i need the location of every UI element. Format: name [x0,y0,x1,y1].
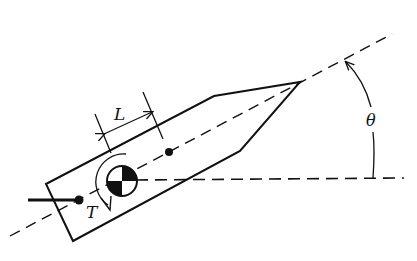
angle-arc-upper [346,62,371,107]
horizontal-reference-line [136,178,404,180]
forward-point-dot [165,148,173,156]
rocket-diagram: L T θ [0,0,417,261]
centerline-axis [10,34,392,236]
rear-pivot-dot [75,196,84,205]
center-of-mass-icon [107,166,137,196]
length-dimension-arrow [104,112,152,134]
dimension-extension-line-rear [95,114,111,153]
body-outline [46,82,300,241]
angle-arc-lower [373,132,374,178]
angle-label: θ [366,111,376,130]
torque-label: T [86,202,99,222]
length-label: L [113,104,125,124]
